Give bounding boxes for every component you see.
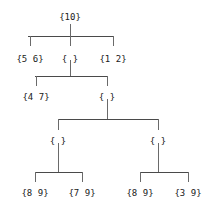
tree-node-n4: {4 7} bbox=[22, 92, 49, 102]
connector-tick bbox=[70, 24, 71, 36]
connector-tick bbox=[58, 119, 59, 130]
tree-diagram: {10}{5 6}{ }{1 2}{4 7}{ }{ }{ }{8 9}{7 9… bbox=[0, 0, 215, 209]
connector-bar bbox=[140, 172, 188, 173]
connector-tick bbox=[30, 36, 31, 46]
connector-tick bbox=[35, 172, 36, 182]
tree-node-n3: {1 2} bbox=[99, 54, 126, 64]
connector-tick bbox=[107, 76, 108, 86]
connector-tick bbox=[188, 172, 189, 182]
connector-tick bbox=[158, 143, 159, 172]
tree-node-n2: { } bbox=[62, 54, 78, 64]
connector-tick bbox=[158, 119, 159, 130]
tree-node-l3: {8 9} bbox=[126, 188, 153, 198]
tree-node-l2: {7 9} bbox=[68, 188, 95, 198]
tree-node-n1: {5 6} bbox=[16, 54, 43, 64]
tree-node-root: {10} bbox=[59, 12, 81, 22]
connector-tick bbox=[58, 143, 59, 172]
connector-tick bbox=[107, 99, 108, 119]
connector-tick bbox=[70, 36, 71, 46]
connector-bar bbox=[35, 172, 82, 173]
connector-tick bbox=[113, 36, 114, 46]
tree-node-n7: { } bbox=[150, 136, 166, 146]
connector-tick bbox=[140, 172, 141, 182]
connector-tick bbox=[82, 172, 83, 182]
connector-bar bbox=[35, 76, 107, 77]
tree-node-n5: { } bbox=[99, 92, 115, 102]
tree-node-l1: {8 9} bbox=[21, 188, 48, 198]
connector-bar bbox=[58, 119, 158, 120]
tree-node-n6: { } bbox=[50, 136, 66, 146]
connector-tick bbox=[36, 76, 37, 86]
tree-node-l4: {3 9} bbox=[174, 188, 201, 198]
